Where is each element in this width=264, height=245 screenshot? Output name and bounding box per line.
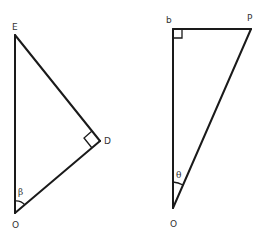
angle-arc-theta [173,182,183,185]
triangle-bPO: b P O θ [166,13,253,229]
vertex-label-b: b [166,15,172,25]
vertex-label-P: P [247,13,253,23]
edge-PO [173,29,251,208]
edge-DO [15,141,100,213]
angle-label-theta: θ [176,170,181,180]
vertex-label-D: D [104,136,111,146]
angle-arc-beta [15,201,25,205]
vertex-label-O-left: O [12,220,19,230]
vertex-label-E: E [12,22,18,32]
vertex-label-O-right: O [170,219,177,229]
triangle-EDO: E D O β [12,22,111,230]
angle-label-beta: β [18,187,23,197]
right-angle-mark-b [173,29,182,38]
right-angle-mark-D [84,131,92,148]
geometry-diagram: E D O β b P O θ [0,0,264,245]
edge-ED [15,35,100,141]
